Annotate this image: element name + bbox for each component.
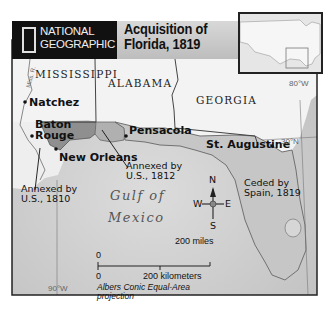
- compass-s: S: [210, 221, 216, 231]
- scale-km-zero: 0: [96, 272, 101, 281]
- label-mexico: Mexico: [108, 211, 165, 224]
- locator-inset-map: [238, 12, 323, 74]
- label-gulf-of: Gulf of: [110, 189, 165, 202]
- dot-pensacola: [124, 134, 128, 138]
- scale-miles-label: 200 miles: [175, 237, 214, 246]
- compass-n: N: [209, 175, 216, 185]
- compass-w: W: [193, 199, 202, 209]
- dot-baton-rouge: [30, 134, 34, 138]
- annotation-1812: Annexed by U.S., 1812: [126, 161, 182, 182]
- label-pensacola: Pensacola: [129, 125, 192, 136]
- projection-note: Albers Conic Equal-Area projection: [97, 283, 190, 301]
- label-georgia: GEORGIA: [196, 95, 257, 106]
- annotation-1819: Ceded by Spain, 1819: [244, 178, 301, 199]
- label-alabama: ALABAMA: [108, 78, 172, 89]
- publisher-line2: GEOGRAPHIC: [40, 38, 115, 51]
- title-line2: Florida, 1819: [124, 37, 207, 52]
- publisher-line1: NATIONAL: [40, 25, 115, 38]
- lake-okeechobee: [285, 219, 301, 237]
- scale-miles-zero: 0: [96, 251, 101, 260]
- map-title: Acquisition of Florida, 1819: [124, 22, 207, 53]
- compass-e: E: [225, 199, 231, 209]
- annotation-1810: Annexed by U.S., 1810: [21, 184, 77, 205]
- label-30n: 30°N: [281, 138, 299, 146]
- dot-new-orleans: [54, 147, 58, 151]
- title-line1: Acquisition of: [124, 22, 207, 37]
- compass-rose: N W E S: [190, 175, 240, 235]
- label-st-augustine: St. Augustine: [206, 139, 290, 150]
- label-natchez: Natchez: [29, 97, 79, 108]
- nat-geo-logo-icon: [22, 27, 36, 53]
- label-80w: 80°W: [289, 80, 309, 88]
- inset-us-outline-icon: [240, 14, 321, 72]
- label-rouge: Rouge: [35, 130, 74, 141]
- label-90w: 90°W: [48, 285, 68, 293]
- publisher-name: NATIONAL GEOGRAPHIC: [40, 25, 115, 50]
- label-mississippi: MISSISSIPPI: [35, 69, 118, 80]
- dot-natchez: [23, 100, 27, 104]
- scale-km-label: 200 kilometers: [143, 272, 202, 281]
